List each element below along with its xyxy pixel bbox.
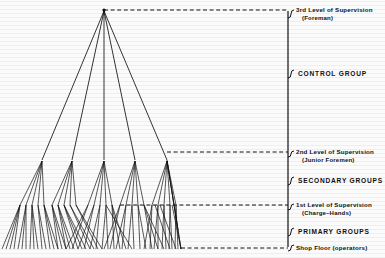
label-secondary-groups: SECONDARY GROUPS: [298, 177, 383, 184]
apex-edges: [42, 11, 167, 160]
label-level3-sub: (Foreman): [302, 15, 333, 21]
label-control-group: CONTROL GROUP: [298, 70, 367, 77]
figure-root: 3rd Level of Supervision (Foreman) CONTR…: [0, 0, 385, 258]
group-1-edges: [2, 161, 58, 249]
tree-edges: [2, 11, 181, 249]
brace-control-group: [288, 70, 294, 78]
brace-primary-groups: [288, 228, 294, 236]
label-level3-title: 3rd Level of Supervision: [296, 6, 373, 13]
apex-node: [102, 8, 105, 11]
hierarchy-diagram: [0, 0, 385, 258]
label-level1-sub: (Charge–Hands): [302, 210, 351, 216]
brace-pointers: [288, 10, 294, 251]
brace-level1: [288, 204, 294, 210]
label-level2-sub: (Junior Foremen): [302, 157, 355, 163]
brace-level3: [288, 10, 294, 18]
label-level2-title: 2nd Level of Supervision: [296, 148, 374, 155]
brace-level2: [288, 151, 294, 157]
label-level1-title: 1st Level of Supervision: [296, 201, 372, 208]
label-shop-floor: Shop Floor (operators): [296, 244, 367, 251]
brace-secondary-groups: [288, 177, 294, 185]
label-primary-groups: PRIMARY GROUPS: [298, 228, 370, 235]
brace-shop-floor: [288, 245, 294, 251]
